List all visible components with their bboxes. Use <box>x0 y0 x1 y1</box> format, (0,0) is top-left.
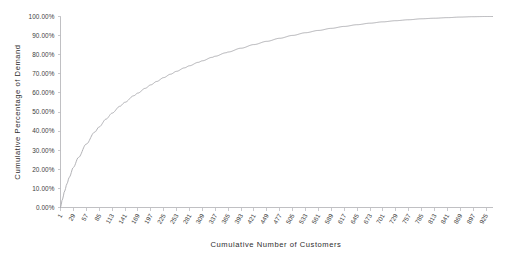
x-axis-tick-label: 897 <box>465 212 477 225</box>
x-axis-tick-label: 673 <box>362 212 374 225</box>
x-axis-tick-label: 309 <box>194 212 206 225</box>
x-axis-tick-label: 169 <box>130 212 142 225</box>
x-axis-tick-label: 393 <box>233 212 245 225</box>
x-axis-tick-label: 869 <box>452 212 464 225</box>
x-axis-tick-label: 197 <box>143 212 155 225</box>
x-axis-tick-label: 925 <box>478 212 490 225</box>
x-axis-tick-label: 57 <box>80 212 90 222</box>
x-axis-tick-label: 225 <box>155 212 167 225</box>
y-axis-tick-label: 90.00% <box>32 32 54 39</box>
x-axis-tick-label: 785 <box>413 212 425 225</box>
series-line-cumulative-demand <box>61 17 493 208</box>
x-axis-tick-label: 701 <box>375 212 387 225</box>
y-axis-tick-label: 10.00% <box>32 185 54 192</box>
x-axis-tick-label: 729 <box>388 212 400 225</box>
x-axis-tick-label: 841 <box>439 212 451 225</box>
x-axis-tick-label: 617 <box>336 212 348 225</box>
x-axis-tick-label: 757 <box>400 212 412 225</box>
y-axis-title: Cumulative Percentage of Demand <box>13 44 22 179</box>
x-axis-tick-label: 1 <box>56 212 64 219</box>
y-axis-tick-label: 70.00% <box>32 70 54 77</box>
chart-canvas: 0.00%10.00%20.00%30.00%40.00%50.00%60.00… <box>0 0 516 260</box>
x-axis-tick-label: 561 <box>310 212 322 225</box>
x-axis-tick-label: 29 <box>67 212 77 222</box>
y-axis-tick-label: 100.00% <box>29 13 55 20</box>
x-axis-tick-label: 141 <box>117 212 129 225</box>
x-axis: 1295785113141169197225253281309337365393… <box>56 208 493 226</box>
x-axis-tick-label: 449 <box>259 212 271 225</box>
y-axis: 0.00%10.00%20.00%30.00%40.00%50.00%60.00… <box>29 13 61 211</box>
x-axis-tick-label: 505 <box>284 212 296 225</box>
x-axis-tick-label: 421 <box>246 212 258 225</box>
y-axis-tick-label: 0.00% <box>36 204 55 211</box>
x-axis-tick-label: 533 <box>297 212 309 225</box>
x-axis-tick-label: 253 <box>168 212 180 225</box>
x-axis-tick-labels: 1295785113141169197225253281309337365393… <box>56 212 490 225</box>
y-axis-tick-label: 60.00% <box>32 89 54 96</box>
x-axis-tick-label: 813 <box>426 212 438 225</box>
x-axis-tick-label: 85 <box>93 212 103 222</box>
x-axis-tick-label: 113 <box>104 212 115 225</box>
y-axis-tick-label: 50.00% <box>32 108 54 115</box>
x-axis-tick-label: 337 <box>207 212 219 225</box>
cumulative-demand-chart: 0.00%10.00%20.00%30.00%40.00%50.00%60.00… <box>0 0 516 260</box>
x-axis-tick-label: 281 <box>181 212 193 225</box>
y-axis-tick-label: 80.00% <box>32 51 54 58</box>
y-axis-tick-labels: 0.00%10.00%20.00%30.00%40.00%50.00%60.00… <box>29 13 55 211</box>
x-axis-title: Cumulative Number of Customers <box>211 240 342 249</box>
data-series-group <box>61 17 493 208</box>
x-axis-tick-label: 365 <box>220 212 232 225</box>
y-axis-tick-label: 30.00% <box>32 147 54 154</box>
x-axis-tick-label: 589 <box>323 212 335 225</box>
y-axis-tick-label: 40.00% <box>32 127 54 134</box>
x-axis-tick-label: 645 <box>349 212 361 225</box>
x-axis-tick-label: 477 <box>271 212 283 225</box>
y-axis-tick-label: 20.00% <box>32 166 54 173</box>
